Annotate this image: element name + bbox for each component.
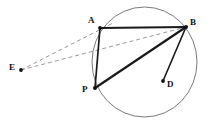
point-D: [161, 79, 165, 83]
point-label-A: A: [88, 16, 95, 25]
point-label-E: E: [9, 63, 15, 72]
geometry-figure: A B E P D: [0, 0, 211, 126]
point-P: [93, 86, 97, 90]
geometry-canvas: [0, 0, 211, 126]
segment-EB: [21, 27, 186, 70]
point-A: [98, 26, 102, 30]
point-label-D: D: [167, 80, 174, 89]
point-label-P: P: [82, 85, 88, 94]
point-E: [19, 68, 23, 72]
segment-AB: [100, 27, 186, 28]
point-label-B: B: [190, 18, 196, 27]
circle-outline: [92, 7, 197, 117]
point-B: [184, 25, 188, 29]
